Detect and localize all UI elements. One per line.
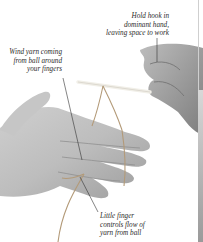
annotation-wind-yarn: Wind yarn coming from ball around your f…: [2, 48, 62, 74]
annotation-little-finger: Little finger controls flow of yarn from…: [100, 212, 170, 238]
annotation-line: yarn from ball: [100, 229, 170, 238]
annotation-hold-hook: Hold hook in dominant hand, leaving spac…: [79, 12, 169, 38]
annotation-line: leaving space to work: [79, 29, 169, 38]
annotation-line: from ball around: [2, 57, 62, 66]
page-edge-shadow: [198, 90, 203, 242]
annotation-line: your fingers: [2, 65, 62, 74]
annotation-line: controls flow of: [100, 221, 170, 230]
annotation-line: dominant hand,: [79, 21, 169, 30]
annotation-line: Little finger: [100, 212, 170, 221]
annotation-line: Wind yarn coming: [2, 48, 62, 57]
crochet-hand-illustration: Hold hook in dominant hand, leaving spac…: [0, 0, 203, 242]
right-hand: [140, 44, 203, 135]
annotation-line: Hold hook in: [79, 12, 169, 21]
left-hand: [0, 92, 150, 198]
